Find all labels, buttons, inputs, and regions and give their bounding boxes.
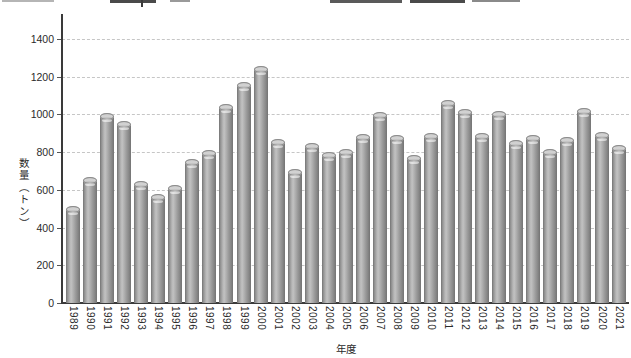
bar-2016	[526, 138, 540, 303]
bar-2017	[543, 152, 557, 303]
cropped-title-remnant	[141, 0, 143, 7]
bar-2018	[560, 140, 574, 303]
bar-2013	[475, 136, 489, 303]
bar-1991	[100, 116, 114, 303]
bar-2006	[356, 137, 370, 303]
x-tick-label: 1991	[101, 306, 113, 330]
x-tick-label: 1995	[169, 306, 181, 330]
bar-2019	[577, 111, 591, 303]
bar-2002	[288, 172, 302, 303]
x-tick-label: 2012	[459, 306, 471, 330]
bar-2009	[407, 158, 421, 303]
x-tick-cell: 1998	[219, 306, 233, 330]
bar-2010	[424, 136, 438, 303]
x-tick-label: 2006	[357, 306, 369, 330]
bar-1994	[151, 197, 165, 303]
bars-area	[63, 55, 629, 303]
x-tick-cell: 1999	[237, 306, 251, 330]
x-tick-label: 2005	[340, 306, 352, 330]
x-tick-label: 2013	[476, 306, 488, 330]
y-tick-label: 0	[14, 298, 54, 308]
x-tick-label: 2007	[374, 306, 386, 330]
bar-2012	[458, 112, 472, 303]
x-tick-cell: 2021	[612, 306, 626, 330]
x-tick-cell: 2019	[577, 306, 591, 330]
x-tick-cell: 1989	[66, 306, 80, 330]
x-tick-cell: 2009	[407, 306, 421, 330]
y-axis-title: 数量（トン）	[16, 158, 31, 230]
x-tick-label: 2018	[561, 306, 573, 330]
x-tick-label: 1989	[67, 306, 79, 330]
bar-2015	[509, 143, 523, 303]
x-tick-cell: 2008	[390, 306, 404, 330]
x-tick-cell: 1991	[100, 306, 114, 330]
bar-2007	[373, 115, 387, 303]
bar-1996	[185, 162, 199, 303]
bar-2000	[254, 69, 268, 303]
cropped-title-remnant	[330, 0, 402, 3]
x-tick-cell: 2007	[373, 306, 387, 330]
cropped-title-remnant	[2, 0, 54, 2]
y-tick-label: 1200	[14, 72, 54, 82]
x-tick-cell: 2020	[595, 306, 609, 330]
bar-1990	[83, 180, 97, 303]
x-tick-cell: 2004	[322, 306, 336, 330]
x-tick-cell: 1994	[151, 306, 165, 330]
x-tick-cell: 2014	[492, 306, 506, 330]
y-tick-label: 800	[14, 147, 54, 157]
x-tick-cell: 2013	[475, 306, 489, 330]
cropped-title-remnant	[472, 0, 520, 2]
x-tick-cell: 2011	[441, 306, 455, 330]
x-tick-label: 2009	[408, 306, 420, 330]
cropped-title-remnant	[170, 0, 190, 2]
x-tick-labels: 1989199019911992199319941995199619971998…	[63, 306, 629, 330]
y-tick-label: 1000	[14, 109, 54, 119]
x-tick-label: 1993	[135, 306, 147, 330]
bar-2020	[595, 135, 609, 303]
x-tick-label: 1990	[84, 306, 96, 330]
bar-chart: 0200400600800100012001400 19891990199119…	[0, 0, 631, 358]
x-tick-cell: 2002	[288, 306, 302, 330]
x-tick-label: 2016	[527, 306, 539, 330]
x-tick-label: 2002	[289, 306, 301, 330]
x-tick-cell: 1995	[168, 306, 182, 330]
cropped-title-remnant	[110, 0, 156, 3]
bar-2014	[492, 114, 506, 303]
x-tick-label: 1998	[220, 306, 232, 330]
bar-1995	[168, 188, 182, 303]
x-axis-title: 年度	[62, 341, 629, 356]
bar-2001	[271, 142, 285, 303]
x-tick-label: 2019	[578, 306, 590, 330]
x-tick-cell: 2012	[458, 306, 472, 330]
x-tick-label: 1997	[203, 306, 215, 330]
x-tick-cell: 2010	[424, 306, 438, 330]
x-tick-label: 2003	[306, 306, 318, 330]
bar-2021	[612, 148, 626, 303]
bar-1997	[202, 153, 216, 303]
x-tick-label: 2008	[391, 306, 403, 330]
bar-1999	[237, 85, 251, 303]
x-tick-label: 2011	[442, 306, 454, 330]
x-tick-cell: 2018	[560, 306, 574, 330]
bar-2003	[305, 146, 319, 303]
x-tick-cell: 2005	[339, 306, 353, 330]
x-tick-cell: 1997	[202, 306, 216, 330]
x-tick-cell: 1992	[117, 306, 131, 330]
bar-1992	[117, 124, 131, 303]
y-tick-label: 200	[14, 260, 54, 270]
bar-1993	[134, 184, 148, 303]
x-tick-label: 1999	[238, 306, 250, 330]
x-tick-cell: 2016	[526, 306, 540, 330]
x-tick-cell: 1993	[134, 306, 148, 330]
gridline-1400	[62, 39, 629, 40]
x-tick-label: 2001	[272, 306, 284, 330]
bar-2005	[339, 152, 353, 303]
x-tick-label: 2004	[323, 306, 335, 330]
bar-1998	[219, 107, 233, 303]
x-tick-label: 2000	[255, 306, 267, 330]
x-tick-label: 2020	[596, 306, 608, 330]
bar-2004	[322, 155, 336, 303]
bar-2008	[390, 138, 404, 303]
x-tick-cell: 2000	[254, 306, 268, 330]
x-tick-cell: 1990	[83, 306, 97, 330]
